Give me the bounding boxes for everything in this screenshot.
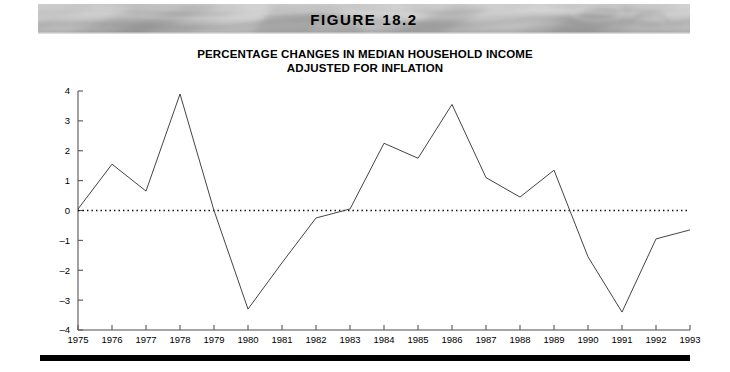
x-axis-tick-label: 1985 (407, 334, 428, 345)
y-axis-tick-label: 3 (65, 115, 70, 126)
figure-bottom-rule (40, 355, 690, 361)
x-axis-tick-label: 1993 (679, 334, 700, 345)
y-axis-ticks: 43210–1–2–3–4 (59, 85, 83, 335)
x-axis-ticks: 1975197619771978197919801981198219831984… (67, 325, 700, 345)
x-axis-tick-label: 1976 (101, 334, 122, 345)
x-axis-tick-label: 1983 (339, 334, 360, 345)
x-axis-tick-label: 1988 (509, 334, 530, 345)
figure-root: FIGURE 18.2 PERCENTAGE CHANGES IN MEDIAN… (0, 0, 730, 372)
x-axis-tick-label: 1984 (373, 334, 394, 345)
y-axis-tick-label: 4 (65, 85, 70, 96)
x-axis-tick-label: 1990 (577, 334, 598, 345)
x-axis-tick-label: 1991 (611, 334, 632, 345)
x-axis-tick-label: 1978 (169, 334, 190, 345)
y-axis-tick-label: 0 (65, 205, 70, 216)
y-axis-tick-label: 2 (65, 145, 70, 156)
x-axis-tick-label: 1986 (441, 334, 462, 345)
y-axis-tick-label: –2 (59, 265, 70, 276)
x-axis-tick-label: 1975 (67, 334, 88, 345)
x-axis-tick-label: 1979 (203, 334, 224, 345)
x-axis-tick-label: 1989 (543, 334, 564, 345)
y-axis-tick-label: –1 (59, 235, 70, 246)
y-axis-tick-label: –3 (59, 295, 70, 306)
x-axis-tick-label: 1981 (271, 334, 292, 345)
y-axis-tick-label: 1 (65, 175, 70, 186)
income-change-line (78, 94, 690, 312)
x-axis-tick-label: 1987 (475, 334, 496, 345)
x-axis-tick-label: 1982 (305, 334, 326, 345)
x-axis-tick-label: 1992 (645, 334, 666, 345)
x-axis-tick-label: 1977 (135, 334, 156, 345)
chart-plot-area: 43210–1–2–3–4 19751976197719781979198019… (0, 0, 730, 372)
x-axis-tick-label: 1980 (237, 334, 258, 345)
